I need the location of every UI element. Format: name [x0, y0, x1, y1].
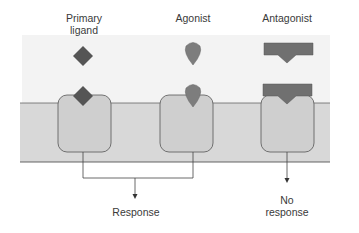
receptor-agonist [160, 95, 213, 152]
response-arrowhead-icon [133, 194, 138, 199]
label-response: Response [108, 206, 164, 218]
label-agonist: Agonist [163, 12, 223, 24]
label-no-response-line1: No [257, 194, 317, 206]
label-primary-ligand: Primary ligand [58, 12, 110, 36]
label-primary-line1: Primary [58, 12, 110, 24]
label-primary-line2: ligand [58, 24, 110, 36]
label-no-response: No response [257, 194, 317, 218]
no-response-arrowhead-icon [285, 178, 290, 183]
label-antagonist: Antagonist [255, 12, 319, 24]
label-no-response-line2: response [257, 206, 317, 218]
